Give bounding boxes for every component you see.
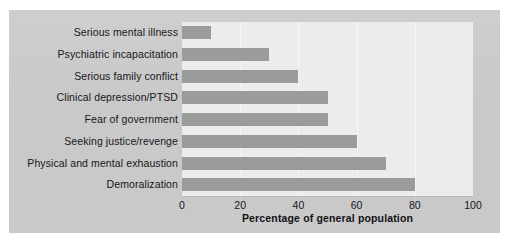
bar-row <box>182 87 473 109</box>
category-axis-labels: Serious mental illness Psychiatric incap… <box>0 22 178 196</box>
bar <box>182 178 415 191</box>
figure: Serious mental illness Psychiatric incap… <box>0 0 516 244</box>
bar-row <box>182 22 473 44</box>
bar-row <box>182 131 473 153</box>
bar-row <box>182 66 473 88</box>
category-label: Psychiatric incapacitation <box>0 44 178 66</box>
bar <box>182 91 328 104</box>
bar <box>182 113 328 126</box>
category-label: Serious family conflict <box>0 66 178 88</box>
x-axis-title: Percentage of general population <box>182 212 473 224</box>
x-tick-label: 60 <box>351 199 363 211</box>
x-tick-label: 40 <box>293 199 305 211</box>
bar <box>182 135 357 148</box>
x-tick-label: 100 <box>464 199 482 211</box>
category-label: Serious mental illness <box>0 22 178 44</box>
x-tick-label: 0 <box>179 199 185 211</box>
bar <box>182 70 298 83</box>
category-label: Seeking justice/revenge <box>0 131 178 153</box>
bar-row <box>182 153 473 175</box>
bar-row <box>182 174 473 196</box>
bar <box>182 157 386 170</box>
category-label: Demoralization <box>0 174 178 196</box>
plot-area <box>182 22 473 196</box>
bar-row <box>182 44 473 66</box>
bar-row <box>182 109 473 131</box>
x-axis-line <box>182 196 473 197</box>
x-tick-label: 20 <box>234 199 246 211</box>
bar <box>182 26 211 39</box>
category-label: Physical and mental exhaustion <box>0 153 178 175</box>
bar <box>182 48 269 61</box>
category-label: Clinical depression/PTSD <box>0 87 178 109</box>
horizontal-bar-chart: Serious mental illness Psychiatric incap… <box>0 0 516 244</box>
category-label: Fear of government <box>0 109 178 131</box>
x-tick-label: 80 <box>409 199 421 211</box>
